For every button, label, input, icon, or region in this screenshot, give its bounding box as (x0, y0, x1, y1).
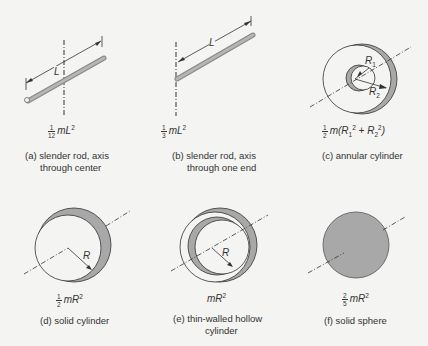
panel-d-solid-cylinder: R 12mR2 (d) solid cylinder (0, 173, 143, 346)
moment-of-inertia-formula: 25mR2 (342, 292, 369, 307)
outer-radius-label: R2 (369, 86, 380, 99)
panel-b-slender-rod-end: L 13mL2 (b) slender rod, axis through on… (143, 0, 286, 173)
moment-of-inertia-formula: 12mR2 (56, 293, 83, 308)
slender-rod-center-illustration (0, 0, 143, 173)
moment-of-inertia-formula: 12m(R12 + R22) (322, 124, 385, 139)
length-label: L (54, 66, 60, 77)
caption: (d) solid cylinder (40, 315, 109, 327)
moment-of-inertia-formula: 13mL2 (161, 124, 186, 139)
length-label: L (209, 37, 215, 48)
caption: (c) annular cylinder (322, 150, 403, 162)
panel-c-annular-cylinder: R1 R2 12m(R12 + R22) (c) annular cylinde… (286, 0, 428, 173)
caption: (e) thin-walled hollow cylinder (173, 313, 262, 337)
inner-radius-label: R1 (365, 55, 376, 68)
radius-label: R (222, 247, 229, 258)
radius-label: R (83, 250, 90, 261)
panel-a-slender-rod-center: L 112mL2 (a) slender rod, axis through c… (0, 0, 143, 173)
moment-of-inertia-formula: mR2 (207, 292, 226, 304)
slender-rod-end-illustration (143, 0, 286, 173)
caption: (b) slender rod, axis through one end (172, 150, 256, 174)
caption: (f) solid sphere (324, 315, 387, 327)
panel-e-thin-walled-hollow-cylinder: R mR2 (e) thin-walled hollow cylinder (143, 173, 286, 346)
annular-cylinder-illustration (286, 0, 428, 173)
panel-f-solid-sphere: 25mR2 (f) solid sphere (286, 173, 428, 346)
caption: (a) slender rod, axis through center (25, 150, 109, 174)
moment-of-inertia-formula: 112mL2 (48, 124, 75, 139)
